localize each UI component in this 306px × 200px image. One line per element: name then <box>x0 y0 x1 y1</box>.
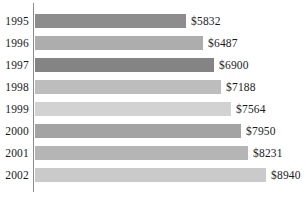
bar-row: 2000$7950 <box>0 120 306 142</box>
value-label-1999: $7564 <box>236 98 266 120</box>
bar-row: 1999$7564 <box>0 98 306 120</box>
value-label-1998: $7188 <box>226 76 256 98</box>
bar-2000 <box>35 124 241 138</box>
value-label-2002: $8940 <box>271 164 301 186</box>
category-label-2001: 2001 <box>0 142 29 164</box>
bar-row: 2002$8940 <box>0 164 306 186</box>
bar-chart: 1995$58321996$64871997$69001998$71881999… <box>0 0 306 200</box>
category-label-2002: 2002 <box>0 164 29 186</box>
category-label-2000: 2000 <box>0 120 29 142</box>
value-label-1995: $5832 <box>191 10 221 32</box>
bar-row: 1996$6487 <box>0 32 306 54</box>
bar-2002 <box>35 168 266 182</box>
bar-1997 <box>35 58 214 72</box>
bar-row: 1998$7188 <box>0 76 306 98</box>
bar-1995 <box>35 14 186 28</box>
bar-row: 1995$5832 <box>0 10 306 32</box>
category-label-1997: 1997 <box>0 54 29 76</box>
value-label-2000: $7950 <box>246 120 276 142</box>
bar-row: 2001$8231 <box>0 142 306 164</box>
category-label-1996: 1996 <box>0 32 29 54</box>
bar-1996 <box>35 36 203 50</box>
plot-area: 1995$58321996$64871997$69001998$71881999… <box>0 0 306 200</box>
value-label-1996: $6487 <box>208 32 238 54</box>
bar-1999 <box>35 102 231 116</box>
category-label-1999: 1999 <box>0 98 29 120</box>
bar-row: 1997$6900 <box>0 54 306 76</box>
value-label-2001: $8231 <box>253 142 283 164</box>
value-label-1997: $6900 <box>219 54 249 76</box>
category-label-1995: 1995 <box>0 10 29 32</box>
category-label-1998: 1998 <box>0 76 29 98</box>
bar-2001 <box>35 146 248 160</box>
bar-1998 <box>35 80 221 94</box>
